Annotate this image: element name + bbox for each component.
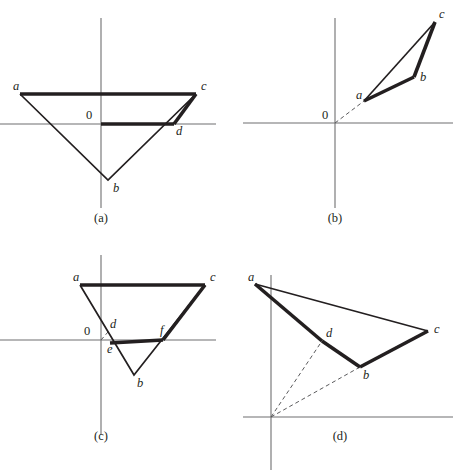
vertex-label-c-c: c <box>210 270 216 284</box>
origin-label-a: 0 <box>86 108 92 122</box>
panel-c: acdfeb0(c) <box>0 255 216 443</box>
panel-a: acdb0(a) <box>0 18 216 225</box>
vertex-label-b-c: c <box>439 7 445 21</box>
figure-container: acdb0(a)abc0(b)acdfeb0(c)acdb(d) <box>0 0 453 470</box>
panels-group: acdb0(a)abc0(b)acdfeb0(c)acdb(d) <box>0 7 453 470</box>
thick-segment-b-0 <box>364 77 414 101</box>
vertex-label-c-d: d <box>110 317 117 331</box>
dashed-segment-b-0 <box>335 101 364 123</box>
vertex-label-c-e: e <box>107 342 113 356</box>
vertex-label-b-a: a <box>356 88 362 102</box>
dashed-segment-d-1 <box>271 367 360 417</box>
four-panel-geometry-figure: acdb0(a)abc0(b)acdfeb0(c)acdb(d) <box>0 0 453 470</box>
thin-outline-b <box>364 22 435 101</box>
vertex-label-b-b: b <box>420 70 426 84</box>
vertex-label-d-c: c <box>434 322 440 336</box>
panel-caption-b: (b) <box>328 211 343 225</box>
vertex-label-c-b: b <box>137 376 143 390</box>
vertex-label-c-f: f <box>160 323 165 337</box>
thick-segment-a-2 <box>174 94 196 124</box>
vertex-label-a-d: d <box>176 124 183 138</box>
thick-segment-b-1 <box>414 22 435 77</box>
vertex-label-d-d: d <box>326 326 333 340</box>
thin-outline-a <box>20 94 196 180</box>
panel-b: abc0(b) <box>243 7 453 225</box>
vertex-label-a-c: c <box>201 79 207 93</box>
origin-label-b: 0 <box>322 108 328 122</box>
thick-segment-c-2 <box>163 285 205 340</box>
panel-caption-d: (d) <box>333 429 348 443</box>
vertex-label-d-a: a <box>248 270 254 284</box>
vertex-label-a-a: a <box>13 79 19 93</box>
thin-outline-c <box>80 285 205 375</box>
vertex-label-a-b: b <box>113 181 119 195</box>
thick-segment-d-2 <box>360 331 428 367</box>
dashed-segment-c-0 <box>101 332 108 340</box>
origin-label-c: 0 <box>84 324 90 338</box>
axes-panel-d <box>243 275 453 470</box>
panel-caption-c: (c) <box>94 429 108 443</box>
thick-segment-d-1 <box>322 341 360 367</box>
vertex-label-c-a: a <box>73 270 79 284</box>
panel-caption-a: (a) <box>94 211 108 225</box>
panel-d: acdb(d) <box>243 270 453 470</box>
vertex-label-d-b: b <box>363 368 369 382</box>
dashed-segment-d-0 <box>271 341 322 417</box>
